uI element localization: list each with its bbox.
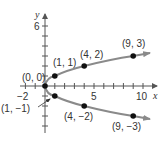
- y-tick-label-6: 6: [34, 21, 40, 32]
- point-1-1: [52, 73, 58, 79]
- label-1-neg1: (1, −1): [1, 103, 30, 114]
- x-axis: −2 5 10 x: [17, 83, 158, 102]
- x-axis-label: x: [152, 90, 158, 101]
- y-axis: 6 y: [34, 9, 48, 133]
- y-axis-label: y: [34, 9, 40, 20]
- point-0-0: [42, 83, 48, 89]
- point-4-neg2: [81, 103, 87, 109]
- point-9-3: [130, 53, 136, 59]
- point-9-neg3: [130, 113, 136, 119]
- point-1-neg1: [52, 93, 58, 99]
- label-4-neg2: (4, −2): [64, 111, 93, 122]
- graph: −2 5 10 x 6 y (0, 0): [0, 0, 167, 142]
- label-9-neg3: (9, −3): [112, 121, 141, 132]
- label-0-0: (0, 0): [22, 72, 45, 83]
- label-1-1: (1, 1): [53, 57, 76, 68]
- label-9-3: (9, 3): [122, 38, 145, 49]
- x-tick-label-neg2: −2: [17, 91, 29, 102]
- label-4-2: (4, 2): [80, 49, 103, 60]
- x-tick-label-5: 5: [91, 91, 97, 102]
- point-4-2: [81, 63, 87, 69]
- x-tick-label-10: 10: [136, 91, 148, 102]
